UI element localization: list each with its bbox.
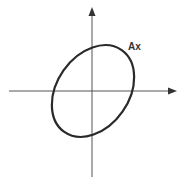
curve-label: Ax [128,41,141,52]
ellipse-diagram: Ax [0,0,185,185]
x-axis-arrow-icon [168,88,177,95]
y-axis [89,7,96,177]
y-axis-arrow-icon [89,7,96,16]
x-axis [9,88,177,95]
